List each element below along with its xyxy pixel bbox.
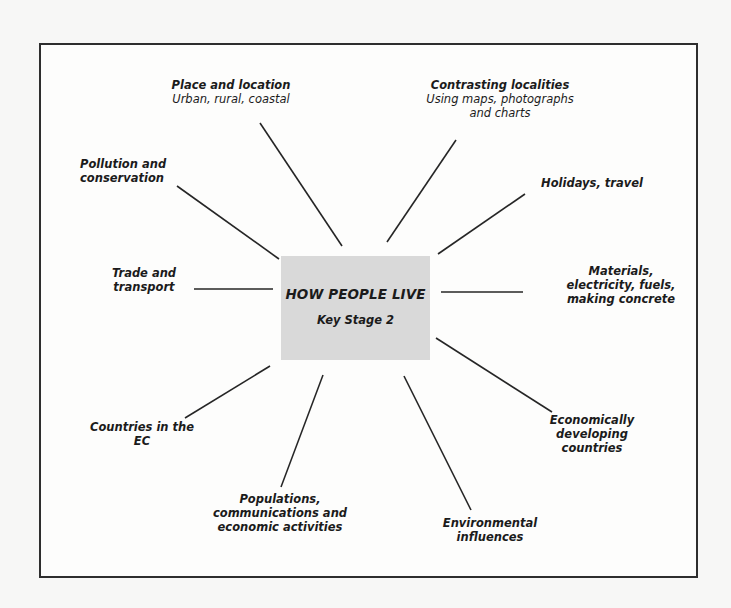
node-title-line-3: making concrete — [546, 292, 696, 306]
connector-holidays-travel — [438, 194, 525, 254]
node-title-line-1: Environmental — [430, 516, 550, 530]
node-trade-and-transport: Trade and transport — [104, 266, 184, 294]
node-title-line-3: countries — [537, 441, 647, 455]
node-title: Contrasting localities — [408, 78, 592, 92]
central-topic-title: HOW PEOPLE LIVE — [285, 286, 425, 302]
node-pollution-and-conservation: Pollution and conservation — [80, 157, 180, 185]
node-populations: Populations, communications and economic… — [200, 492, 360, 534]
connector-populations — [281, 375, 323, 487]
central-topic-box: HOW PEOPLE LIVE Key Stage 2 — [281, 256, 430, 360]
central-topic-subtitle: Key Stage 2 — [317, 313, 394, 327]
node-title-line-2: communications and — [200, 506, 360, 520]
node-subtitle-line-1: Using maps, photographs — [408, 92, 592, 106]
node-title: Place and location — [150, 78, 312, 92]
node-holidays-travel: Holidays, travel — [532, 176, 652, 190]
node-title-line-2: electricity, fuels, — [546, 278, 696, 292]
node-title-line-3: economic activities — [200, 520, 360, 534]
node-title-line-1: Pollution and — [80, 157, 180, 171]
node-place-and-location: Place and location Urban, rural, coastal — [150, 78, 312, 106]
connector-pollution-and-conservation — [177, 186, 279, 259]
node-title-line-1: Economically — [537, 413, 647, 427]
node-title-line-2: EC — [80, 434, 204, 448]
node-title-line-1: Populations, — [200, 492, 360, 506]
node-countries-in-the-ec: Countries in the EC — [80, 420, 204, 448]
connector-contrasting-localities — [387, 140, 456, 242]
node-economically-developing-countries: Economically developing countries — [537, 413, 647, 455]
connector-economically-developing — [436, 338, 552, 412]
node-title-line-2: conservation — [80, 171, 180, 185]
node-title-line-1: Countries in the — [80, 420, 204, 434]
node-environmental-influences: Environmental influences — [430, 516, 550, 544]
node-title-line-2: transport — [104, 280, 184, 294]
node-contrasting-localities: Contrasting localities Using maps, photo… — [408, 78, 592, 120]
node-subtitle: Urban, rural, coastal — [150, 92, 312, 106]
connector-countries-in-the-ec — [185, 366, 270, 418]
node-materials: Materials, electricity, fuels, making co… — [546, 264, 696, 306]
node-subtitle-line-2: and charts — [408, 106, 592, 120]
connector-place-and-location — [260, 123, 342, 246]
node-title: Holidays, travel — [532, 176, 652, 190]
node-title-line-1: Materials, — [546, 264, 696, 278]
node-title-line-1: Trade and — [104, 266, 184, 280]
node-title-line-2: influences — [430, 530, 550, 544]
connector-environmental-influences — [404, 376, 471, 510]
node-title-line-2: developing — [537, 427, 647, 441]
